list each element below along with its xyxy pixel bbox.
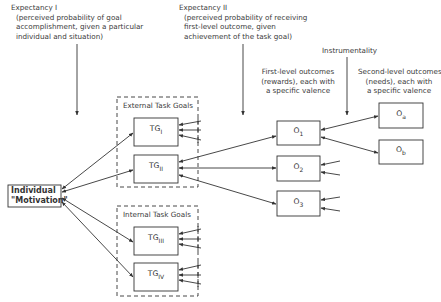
expectancy1-title: Expectancy I — [11, 3, 57, 12]
motivation-line: "Motivation" — [11, 196, 68, 206]
first-level-line: First-level outcomes — [258, 67, 338, 77]
expectancy1-line: (perceived probability of goal — [11, 13, 143, 23]
first-outcome-1: O1 — [277, 126, 320, 137]
expectancy1-label: Expectancy I (perceived probability of g… — [11, 3, 143, 41]
task-goal-3: TGIII — [134, 233, 178, 244]
expectancy1-line: individual and situation) — [11, 32, 143, 42]
expectancy2-line: achievement of the task goal) — [179, 32, 307, 42]
second-outcome-a: Oa — [379, 109, 423, 120]
expectancy2-label: Expectancy II (perceived probability of … — [179, 3, 307, 41]
first-outcome-3: O3 — [277, 197, 320, 208]
expectancy2-line: first-level outcome, given — [179, 22, 307, 32]
expectancy1-line: accomplishment, given a particular — [11, 22, 143, 32]
expectancy2-title: Expectancy II — [179, 3, 227, 12]
second-level-line: Second-level outcomes — [358, 67, 440, 77]
second-level-label: Second-level outcomes (needs), each with… — [358, 67, 440, 96]
task-goal-2: TGII — [134, 161, 178, 172]
first-outcome-2: O2 — [277, 162, 320, 173]
instrumentality-label: Instrumentality — [322, 46, 377, 56]
first-level-line: a specific valence — [258, 86, 338, 96]
individual-line: Individual — [11, 186, 68, 196]
first-level-line: (rewards), each with — [258, 77, 338, 87]
second-outcome-b: Ob — [379, 145, 423, 156]
second-level-line: (needs), each with — [358, 77, 440, 87]
individual-motivation-node: Individual "Motivation" — [11, 186, 68, 206]
external-group-label: External Task Goals — [123, 101, 193, 111]
task-goal-1: TGI — [134, 124, 178, 135]
second-level-line: a specific valence — [358, 86, 440, 96]
first-level-label: First-level outcomes (rewards), each wit… — [258, 67, 338, 96]
expectancy2-line: (perceived probability of receiving — [179, 13, 307, 23]
task-goal-4: TGIV — [134, 269, 178, 280]
internal-group-label: Internal Task Goals — [123, 210, 191, 220]
